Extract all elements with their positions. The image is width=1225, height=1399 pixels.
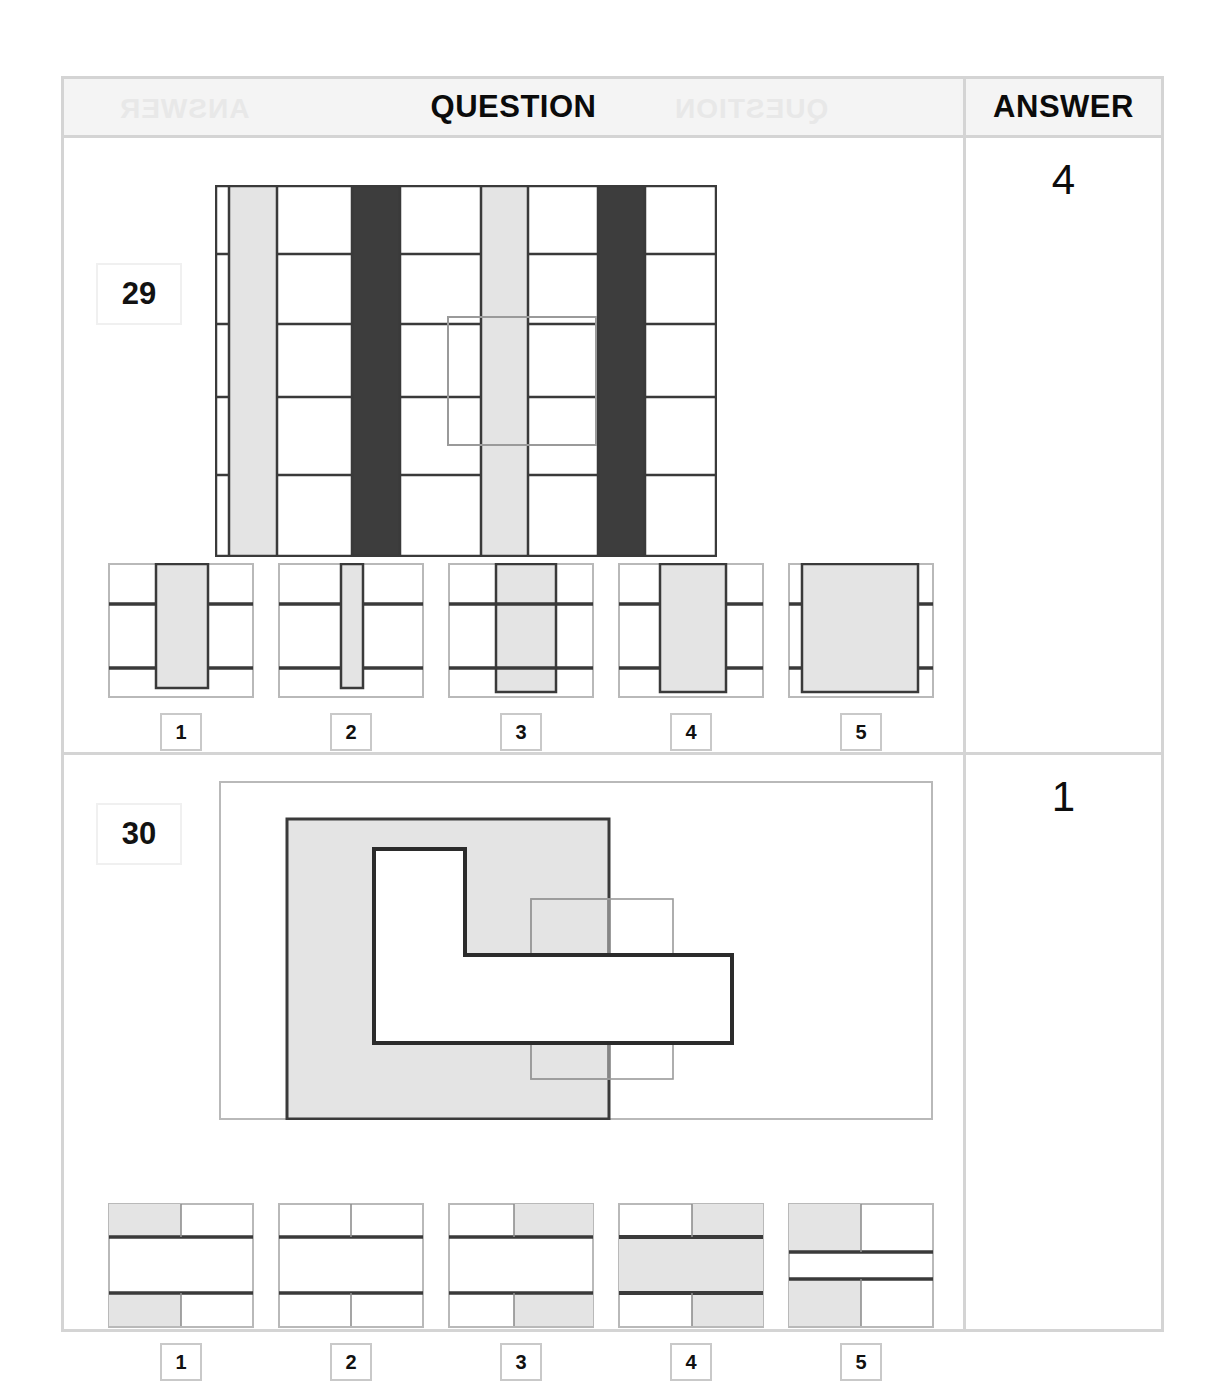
option-29-5[interactable]: 5: [788, 563, 934, 698]
option-30-1[interactable]: 1: [108, 1203, 254, 1328]
option-29-1-svg: [108, 563, 254, 698]
option-29-2-label: 2: [345, 721, 356, 744]
stimulus-figure-29: [215, 185, 717, 557]
header-cell-answer: ANSWER: [963, 79, 1161, 135]
table-header-row: ANSWER QUESTION QUESTION ANSWER: [64, 79, 1161, 138]
option-29-1-label: 1: [175, 721, 186, 744]
question-number-29: 29: [96, 263, 182, 325]
option-30-5-label: 5: [855, 1351, 866, 1374]
option-30-2[interactable]: 2: [278, 1203, 424, 1328]
option-30-4-svg: [618, 1203, 764, 1328]
question-number-30: 30: [96, 803, 182, 865]
page-root: ANSWER QUESTION QUESTION ANSWER 29: [0, 0, 1225, 1399]
option-29-3-label-box: 3: [500, 713, 542, 751]
question-number-30-label: 30: [122, 816, 156, 852]
stimulus-29-svg: [215, 185, 717, 557]
option-30-4-label-box: 4: [670, 1343, 712, 1381]
option-29-4-label: 4: [685, 721, 696, 744]
option-29-3-svg: [448, 563, 594, 698]
option-30-4[interactable]: 4: [618, 1203, 764, 1328]
option-29-4[interactable]: 4: [618, 563, 764, 698]
answer-value-30: 1: [966, 773, 1161, 821]
question-answer-table: ANSWER QUESTION QUESTION ANSWER 29: [61, 76, 1164, 1332]
option-29-4-label-box: 4: [670, 713, 712, 751]
option-29-5-label-box: 5: [840, 713, 882, 751]
option-29-3[interactable]: 3: [448, 563, 594, 698]
answer-cell-29: 4: [966, 138, 1161, 752]
option-29-2[interactable]: 2: [278, 563, 424, 698]
stimulus-figure-30: [219, 781, 933, 1120]
option-30-1-label-box: 1: [160, 1343, 202, 1381]
option-30-4-label: 4: [685, 1351, 696, 1374]
option-30-2-svg: [278, 1203, 424, 1328]
question-cell-30: 30: [64, 755, 963, 1332]
option-30-5[interactable]: 5: [788, 1203, 934, 1328]
option-30-3-label-box: 3: [500, 1343, 542, 1381]
answer-value-29: 4: [966, 156, 1161, 204]
option-30-5-svg: [788, 1203, 934, 1328]
col-light-2: [481, 186, 528, 556]
option-29-5-label: 5: [855, 721, 866, 744]
option-29-2-svg: [278, 563, 424, 698]
header-answer-label: ANSWER: [993, 89, 1134, 125]
stimulus-30-svg: [219, 781, 933, 1120]
answer-cell-30: 1: [966, 755, 1161, 1332]
col-dark-2: [598, 186, 645, 556]
option-30-2-label: 2: [345, 1351, 356, 1374]
option-30-1-label: 1: [175, 1351, 186, 1374]
option-29-1-label-box: 1: [160, 713, 202, 751]
option-30-3[interactable]: 3: [448, 1203, 594, 1328]
option-29-4-svg: [618, 563, 764, 698]
header-cell-question: QUESTION: [64, 79, 963, 135]
question-cell-29: 29: [64, 138, 963, 752]
option-30-3-svg: [448, 1203, 594, 1328]
header-question-label: QUESTION: [431, 89, 597, 125]
option-29-5-svg: [788, 563, 934, 698]
question-number-29-label: 29: [122, 276, 156, 312]
option-30-2-label-box: 2: [330, 1343, 372, 1381]
option-30-3-label: 3: [515, 1351, 526, 1374]
col-light-1: [229, 186, 277, 556]
option-30-1-svg: [108, 1203, 254, 1328]
option-30-5-label-box: 5: [840, 1343, 882, 1381]
option-29-3-label: 3: [515, 721, 526, 744]
option-29-2-label-box: 2: [330, 713, 372, 751]
col-dark-1: [352, 186, 400, 556]
option-29-1[interactable]: 1: [108, 563, 254, 698]
